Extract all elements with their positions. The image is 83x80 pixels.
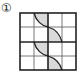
grid-diagram <box>0 0 83 80</box>
shaded-region-bottom-right <box>48 56 62 70</box>
thick-grid-lines <box>20 13 76 70</box>
shaded-region-top-right <box>48 27 62 42</box>
shaded-region-bottom-left <box>34 42 48 56</box>
shaded-region-top-left <box>34 13 48 27</box>
